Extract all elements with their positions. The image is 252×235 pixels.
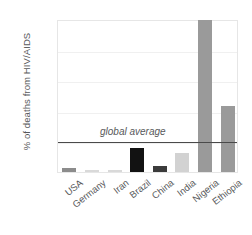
bar-india	[175, 153, 189, 172]
bar-usa	[62, 168, 76, 172]
global-average-line	[58, 142, 237, 144]
plot-area: global average	[57, 20, 238, 173]
y-axis-title: % of deaths from HIV/AIDS	[21, 12, 32, 172]
bar-chart-figure: % of deaths from HIV/AIDS 10 8 6 4 2 0 g…	[0, 0, 252, 235]
bar-nigeria	[198, 20, 212, 172]
bar-germany	[85, 170, 99, 172]
bar-china	[153, 166, 167, 172]
bar-iran	[108, 170, 122, 172]
bar-brazil	[130, 148, 144, 172]
global-average-label: global average	[100, 126, 166, 137]
bar-ethiopia	[221, 106, 235, 172]
